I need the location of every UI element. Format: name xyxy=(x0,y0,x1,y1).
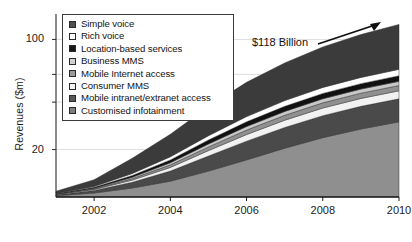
legend-swatch-icon xyxy=(69,21,76,28)
legend-item[interactable]: Rich voice xyxy=(67,30,229,42)
legend-swatch-icon xyxy=(69,95,76,102)
legend-item-label: Mobile Internet access xyxy=(81,68,175,80)
legend-item-label: Business MMS xyxy=(81,55,144,67)
chart-figure: Revenues ($m) 20100 20022004200620082010… xyxy=(0,0,412,242)
legend-item[interactable]: Business MMS xyxy=(67,55,229,67)
legend-swatch-icon xyxy=(69,70,76,77)
legend-item[interactable]: Mobile intranet/extranet access xyxy=(67,92,229,104)
x-tick-label: 2008 xyxy=(311,204,335,216)
legend-item-label: Mobile intranet/extranet access xyxy=(81,92,211,104)
x-tick-label: 2002 xyxy=(82,204,106,216)
callout-annotation: $118 Billion xyxy=(252,36,308,48)
legend-item[interactable]: Customised infotainment xyxy=(67,105,229,117)
legend-swatch-icon xyxy=(69,107,76,114)
legend-item-label: Simple voice xyxy=(81,18,134,30)
x-tick-label: 2010 xyxy=(387,204,411,216)
x-tick-label: 2004 xyxy=(158,204,182,216)
y-tick-label: 100 xyxy=(26,32,44,44)
legend-item[interactable]: Consumer MMS xyxy=(67,80,229,92)
legend-item-label: Customised infotainment xyxy=(81,105,184,117)
y-tick-label: 20 xyxy=(32,143,44,155)
legend-item[interactable]: Simple voice xyxy=(67,18,229,30)
legend-item[interactable]: Location-based services xyxy=(67,43,229,55)
legend-item-label: Location-based services xyxy=(81,43,182,55)
legend-swatch-icon xyxy=(69,58,76,65)
legend-item-label: Consumer MMS xyxy=(81,80,149,92)
x-tick-label: 2006 xyxy=(234,204,258,216)
legend-item[interactable]: Mobile Internet access xyxy=(67,68,229,80)
legend-swatch-icon xyxy=(69,45,76,52)
legend-swatch-icon xyxy=(69,83,76,90)
legend-swatch-icon xyxy=(69,33,76,40)
chart-legend: Simple voiceRich voiceLocation-based ser… xyxy=(62,14,234,121)
legend-item-label: Rich voice xyxy=(81,30,124,42)
